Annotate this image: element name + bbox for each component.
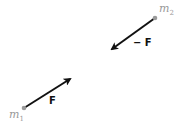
mass-label-m2-base: m [159, 2, 169, 15]
mass-label-m1-sub: 1 [19, 115, 23, 123]
force-label-minus-f: − F [133, 38, 152, 48]
mass-label-m2-sub: 2 [169, 9, 173, 17]
force-arrow-f [24, 79, 70, 108]
mass-label-m1-base: m [9, 108, 19, 121]
mass-label-m1: m1 [9, 110, 24, 124]
mass-dot-m2 [153, 16, 158, 21]
force-diagram [0, 0, 175, 127]
mass-label-m2: m2 [159, 4, 174, 18]
force-label-f: F [49, 96, 56, 106]
